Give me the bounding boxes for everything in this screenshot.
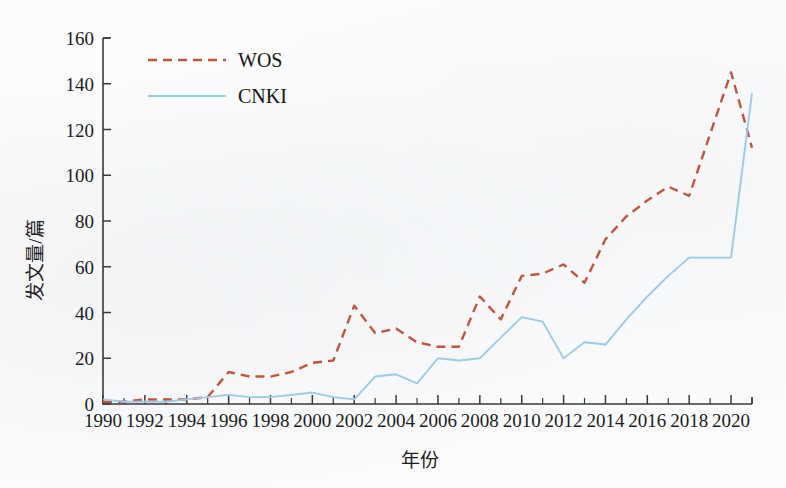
data-series-group [103, 72, 752, 401]
x-axis-title: 年份 [401, 450, 439, 471]
x-tick-label: 2012 [545, 410, 583, 431]
y-tick-label: 80 [75, 211, 94, 232]
y-axis-tick-labels: 020406080100120140160 [66, 28, 95, 415]
x-tick-label: 2014 [586, 410, 625, 431]
y-tick-label: 20 [75, 348, 94, 369]
legend-label-cnki: CNKI [238, 85, 287, 107]
x-tick-label: 1990 [84, 410, 122, 431]
y-tick-label: 140 [66, 74, 95, 95]
line-chart-canvas: 020406080100120140160 199019921994199619… [0, 0, 786, 488]
x-axis-tick-labels: 1990199219941996199820002002200420062008… [84, 410, 750, 431]
y-axis-ticks [103, 38, 111, 404]
x-tick-label: 2000 [293, 410, 331, 431]
x-axis-ticks [103, 395, 752, 404]
x-tick-label: 1996 [210, 410, 248, 431]
chart-axes [103, 38, 752, 404]
x-tick-label: 2004 [377, 410, 416, 431]
x-tick-label: 2002 [335, 410, 373, 431]
legend-label-wos: WOS [238, 49, 282, 71]
series-line-cnki [103, 93, 752, 402]
chart-figure: 020406080100120140160 199019921994199619… [0, 0, 786, 488]
x-tick-label: 2018 [670, 410, 708, 431]
y-axis-title: 发文量/篇 [25, 219, 46, 300]
y-tick-label: 160 [66, 28, 95, 49]
y-tick-label: 100 [66, 165, 95, 186]
y-tick-label: 60 [75, 257, 94, 278]
series-line-wos [103, 72, 752, 401]
x-tick-label: 1992 [126, 410, 164, 431]
x-tick-label: 2016 [628, 410, 666, 431]
x-tick-label: 2008 [461, 410, 499, 431]
x-tick-label: 1998 [251, 410, 289, 431]
chart-legend: WOSCNKI [148, 49, 287, 107]
y-tick-label: 40 [75, 303, 94, 324]
x-tick-label: 2010 [503, 410, 541, 431]
x-tick-label: 2006 [419, 410, 457, 431]
x-tick-label: 2020 [712, 410, 750, 431]
x-tick-label: 1994 [168, 410, 207, 431]
y-tick-label: 120 [66, 120, 95, 141]
